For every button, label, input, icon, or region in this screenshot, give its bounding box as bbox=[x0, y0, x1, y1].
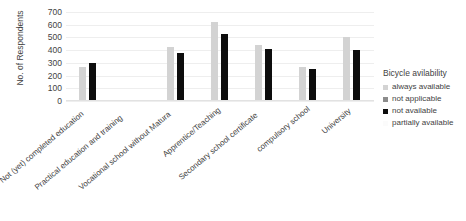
x-axis-label: University bbox=[320, 107, 353, 136]
x-axis-label: Secondary school certificate bbox=[177, 111, 259, 182]
x-axis-label: compulsory school bbox=[255, 105, 312, 154]
legend-item[interactable]: partially available bbox=[383, 119, 466, 127]
bar-group bbox=[286, 12, 330, 101]
bar bbox=[265, 49, 272, 101]
x-axis-label: Vocational school without Matura bbox=[77, 110, 172, 192]
bar bbox=[177, 53, 184, 101]
bar bbox=[211, 22, 218, 101]
bar-group bbox=[110, 12, 154, 101]
bar-group bbox=[198, 12, 242, 101]
legend-swatch-icon bbox=[383, 109, 388, 114]
bar bbox=[79, 67, 86, 101]
y-axis-tick-500: 500 bbox=[36, 33, 62, 42]
bar-chart: No. of Respondents 700600500400300200100… bbox=[0, 0, 466, 221]
bar bbox=[343, 37, 350, 101]
legend-item-label: not available bbox=[392, 107, 437, 115]
legend-item[interactable]: not applicable bbox=[383, 95, 466, 103]
legend: Bicycle avilability always availablenot … bbox=[383, 68, 466, 131]
y-axis-tick-400: 400 bbox=[36, 46, 62, 55]
y-axis-tick-200: 200 bbox=[36, 71, 62, 80]
legend-item-label: partially available bbox=[392, 119, 453, 127]
y-axis-tick-0: 0 bbox=[36, 97, 62, 106]
bar bbox=[299, 67, 306, 101]
legend-item-label: always available bbox=[392, 83, 450, 91]
bar-group bbox=[330, 12, 374, 101]
legend-item-label: not applicable bbox=[392, 95, 441, 103]
legend-swatch-icon bbox=[383, 97, 388, 102]
legend-item[interactable]: not available bbox=[383, 107, 466, 115]
legend-item[interactable]: always available bbox=[383, 83, 466, 91]
y-axis-tick-300: 300 bbox=[36, 59, 62, 68]
x-axis-label: Not (yet) completed education bbox=[0, 109, 86, 185]
gridline bbox=[66, 101, 374, 102]
x-axis-label: Practical education and training bbox=[33, 114, 124, 193]
y-axis-tick-labels: 7006005004003002001000 bbox=[36, 0, 62, 110]
y-axis-title: No. of Respondents bbox=[15, 0, 25, 98]
bar bbox=[89, 63, 96, 101]
bar-group bbox=[154, 12, 198, 101]
y-axis-tick-600: 600 bbox=[36, 20, 62, 29]
bar bbox=[255, 45, 262, 101]
legend-swatch-icon bbox=[383, 85, 388, 90]
bar bbox=[353, 50, 360, 101]
bar bbox=[167, 47, 174, 101]
legend-title: Bicycle avilability bbox=[383, 68, 466, 78]
bar bbox=[309, 69, 316, 101]
bar bbox=[221, 34, 228, 101]
y-axis-tick-700: 700 bbox=[36, 8, 62, 17]
legend-items: always availablenot applicablenot availa… bbox=[383, 83, 466, 127]
bar-group bbox=[66, 12, 110, 101]
plot-area bbox=[66, 12, 374, 101]
legend-swatch-icon bbox=[383, 121, 388, 126]
y-axis-tick-100: 100 bbox=[36, 84, 62, 93]
bar-group bbox=[242, 12, 286, 101]
x-axis-baseline bbox=[66, 100, 374, 101]
